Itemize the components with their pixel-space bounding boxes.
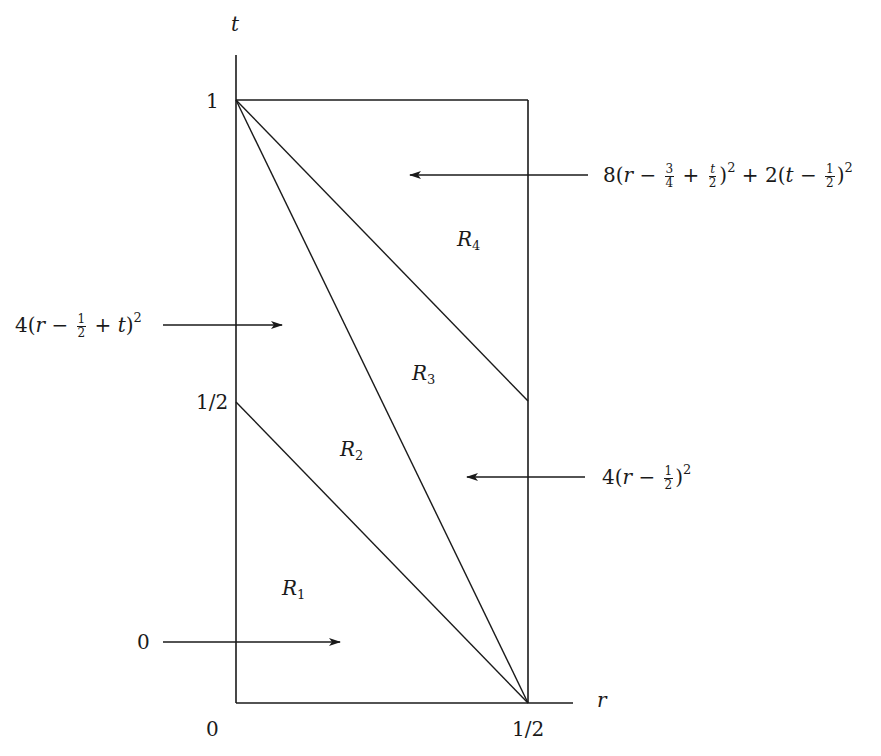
r-tick-0: 0 [206,719,219,739]
formula-bottom-left: 0 [137,632,150,652]
boundary-r3-r4 [236,100,528,401]
formula-top-right: 8(r − 34 + t2)2 + 2(t − 12)2 [603,160,853,190]
region-r2: R2 [340,437,363,463]
boundary-r2-r3 [236,100,528,703]
boundary-r1-r2 [236,402,528,703]
r-axis-label: r [597,690,607,710]
t-tick-half: 1/2 [196,392,228,412]
formula-mid-left: 4(r − 12 + t)2 [15,310,142,340]
formula-mid-right: 4(r − 12)2 [602,462,691,492]
region-r1: R1 [282,576,305,602]
region-r3: R3 [412,361,435,387]
t-axis-label: t [231,14,239,34]
r-tick-half: 1/2 [512,719,544,739]
diagram-canvas [0,0,881,756]
t-tick-1: 1 [206,91,219,111]
region-r4: R4 [457,227,480,253]
